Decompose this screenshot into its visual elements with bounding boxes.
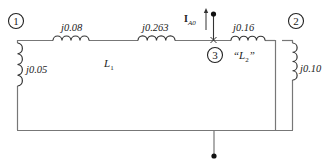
label-j0-16: j0.16: [231, 22, 255, 33]
ground-terminal-dot: [211, 153, 216, 158]
label-j0-08: j0.08: [59, 22, 83, 33]
current-injection-lead: [211, 11, 216, 40]
inductor-j0-263: [138, 36, 175, 41]
circuit-diagram: 1 2 3 IA0 j0.08 j0.263 j0.16 j0.05 j0.10…: [0, 0, 333, 166]
inductor-j0-08: [53, 36, 89, 41]
label-l2: “L2”: [233, 49, 255, 64]
current-arrow-icon: [204, 8, 208, 30]
inductor-j0-16: [231, 36, 265, 40]
node-3: 3: [208, 48, 223, 63]
svg-text:2: 2: [293, 15, 299, 27]
inductor-j0-10: [293, 43, 298, 80]
label-j0-263: j0.263: [140, 22, 169, 33]
label-j0-05: j0.05: [24, 64, 47, 75]
svg-text:1: 1: [13, 15, 19, 27]
node-2: 2: [289, 14, 304, 29]
inductor-j0-05: [18, 43, 23, 86]
svg-text:3: 3: [212, 49, 218, 61]
node-1: 1: [9, 14, 24, 29]
label-j0-10: j0.10: [298, 63, 322, 74]
current-label: IA0: [184, 13, 196, 27]
label-l1: L1: [103, 57, 114, 72]
